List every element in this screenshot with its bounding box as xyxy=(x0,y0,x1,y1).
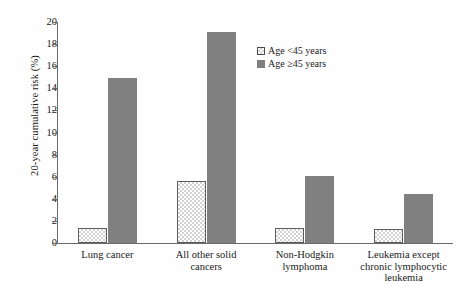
legend-swatch-icon xyxy=(257,47,265,55)
y-tick: 18 xyxy=(0,39,57,49)
legend-item: Age ≥45 years xyxy=(257,57,326,70)
y-tick-mark xyxy=(52,221,57,222)
x-axis-category-label-line: leukemia xyxy=(344,272,464,284)
x-axis-category-label-line: chronic lymphocytic xyxy=(344,261,464,273)
bar xyxy=(177,181,206,243)
y-tick-label: 0 xyxy=(11,238,57,248)
x-axis-category-label: Leukemia exceptchronic lymphocyticleukem… xyxy=(344,249,464,284)
y-tick-label: 14 xyxy=(11,83,57,93)
y-tick-mark xyxy=(52,177,57,178)
y-tick: 12 xyxy=(0,105,57,115)
y-tick-label: 16 xyxy=(11,61,57,71)
y-tick: 16 xyxy=(0,61,57,71)
y-tick-mark xyxy=(52,66,57,67)
y-tick-mark xyxy=(52,155,57,156)
bars-layer xyxy=(58,22,453,243)
y-tick-label: 20 xyxy=(11,17,57,27)
y-tick-label: 12 xyxy=(11,105,57,115)
legend-item: Age <45 years xyxy=(257,44,326,57)
y-tick: 20 xyxy=(0,17,57,27)
y-tick: 2 xyxy=(0,216,57,226)
y-tick: 0 xyxy=(0,238,57,248)
bar xyxy=(305,176,334,243)
bar-chart: 20-year cumulative risk (%) 024681012141… xyxy=(0,0,464,292)
y-tick: 14 xyxy=(0,83,57,93)
legend-item-label: Age ≥45 years xyxy=(268,57,326,70)
y-tick: 8 xyxy=(0,150,57,160)
bar xyxy=(207,32,236,243)
y-tick-label: 6 xyxy=(11,172,57,182)
legend-item-label: Age <45 years xyxy=(268,44,326,57)
y-tick-mark xyxy=(52,133,57,134)
y-tick-label: 4 xyxy=(11,194,57,204)
bar xyxy=(108,78,137,243)
bar xyxy=(404,194,433,243)
y-tick-label: 18 xyxy=(11,39,57,49)
y-tick-mark xyxy=(52,44,57,45)
y-tick-mark xyxy=(52,22,57,23)
y-tick-label: 2 xyxy=(11,216,57,226)
y-tick: 6 xyxy=(0,172,57,182)
x-axis-category-label-line: Leukemia except xyxy=(344,249,464,261)
chart-legend: Age <45 yearsAge ≥45 years xyxy=(257,44,326,70)
y-tick-label: 10 xyxy=(11,128,57,138)
bar xyxy=(78,228,107,243)
y-tick-mark xyxy=(52,243,57,244)
bar xyxy=(275,228,304,243)
x-axis-line xyxy=(57,243,453,244)
y-tick: 10 xyxy=(0,128,57,138)
y-tick-mark xyxy=(52,199,57,200)
y-tick-mark xyxy=(52,110,57,111)
bar xyxy=(374,229,403,243)
y-tick-label: 8 xyxy=(11,150,57,160)
legend-swatch-icon xyxy=(257,60,265,68)
y-tick-mark xyxy=(52,88,57,89)
y-tick: 4 xyxy=(0,194,57,204)
